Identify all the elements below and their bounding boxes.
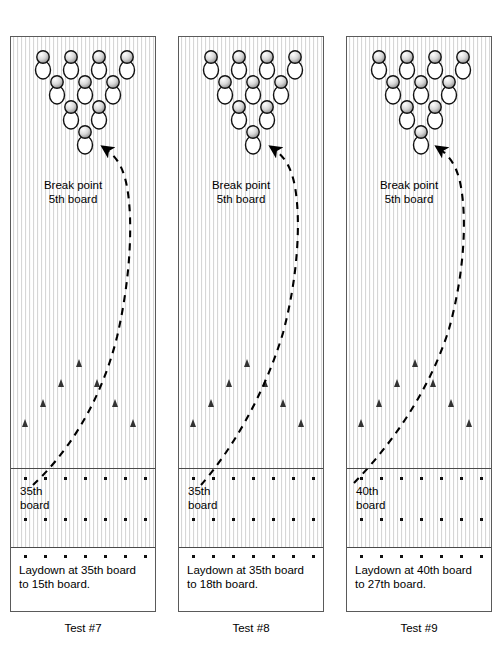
test-label-3: Test #9 [346, 622, 492, 634]
dot-row-upper-3 [347, 477, 491, 483]
dot-row-lower-2 [179, 518, 323, 524]
break-label-line2: 5th board [49, 193, 98, 205]
dot-row-caption-3 [347, 555, 491, 561]
caption-area-1: Laydown at 35th board to 15th board. [11, 547, 155, 612]
board-label-line2: board [188, 499, 217, 511]
caption-line2: to 15th board. [19, 578, 90, 590]
dot-row-upper-1 [11, 477, 155, 483]
caption-line1: Laydown at 35th board [19, 564, 136, 576]
caption-text-3: Laydown at 40th board to 27th board. [355, 564, 485, 591]
caption-line2: to 18th board. [187, 578, 258, 590]
foul-line-1 [11, 468, 155, 469]
lane-arrow-markers [358, 359, 472, 427]
board-label-line2: board [20, 499, 49, 511]
caption-text-1: Laydown at 35th board to 15th board. [19, 564, 149, 591]
break-label-line1: Break point [380, 179, 438, 191]
caption-line1: Laydown at 40th board [355, 564, 472, 576]
lane-panel-test8: 35th board Break point 5th board Laydown… [178, 36, 324, 612]
dot-row-lower-1 [11, 518, 155, 524]
test-label-2: Test #8 [178, 622, 324, 634]
board-label-line1: 35th [188, 485, 210, 497]
dot-row-caption-1 [11, 555, 155, 561]
break-point-label-1: Break point 5th board [23, 179, 123, 206]
break-label-line2: 5th board [217, 193, 266, 205]
foul-line-2 [179, 468, 323, 469]
caption-area-3: Laydown at 40th board to 27th board. [347, 547, 491, 612]
break-label-line2: 5th board [385, 193, 434, 205]
caption-area-2: Laydown at 35th board to 18th board. [179, 547, 323, 612]
break-label-line1: Break point [44, 179, 102, 191]
lane-graphics-3 [347, 37, 491, 611]
dot-row-upper-2 [179, 477, 323, 483]
board-label-2: 35th board [188, 485, 217, 512]
lane-arrow-markers [22, 359, 136, 427]
pin-group [372, 51, 471, 154]
lane-panel-test7: 35th board Break point 5th board Laydown… [10, 36, 156, 612]
board-label-line1: 40th [356, 485, 378, 497]
board-label-line1: 35th [20, 485, 42, 497]
pin-group [36, 51, 135, 154]
caption-text-2: Laydown at 35th board to 18th board. [187, 564, 317, 591]
lane-graphics-2 [179, 37, 323, 611]
board-label-1: 35th board [20, 485, 49, 512]
caption-line2: to 27th board. [355, 578, 426, 590]
lane-graphics-1 [11, 37, 155, 611]
dot-row-lower-3 [347, 518, 491, 524]
dot-row-caption-2 [179, 555, 323, 561]
caption-line1: Laydown at 35th board [187, 564, 304, 576]
board-label-3: 40th board [356, 485, 385, 512]
test-label-1: Test #7 [10, 622, 156, 634]
break-label-line1: Break point [212, 179, 270, 191]
bowling-diagram: 35th board Break point 5th board Laydown… [0, 0, 501, 645]
foul-line-3 [347, 468, 491, 469]
break-point-label-2: Break point 5th board [191, 179, 291, 206]
lane-panel-test9: 40th board Break point 5th board Laydown… [346, 36, 492, 612]
pin-group [204, 51, 303, 154]
board-label-line2: board [356, 499, 385, 511]
break-point-label-3: Break point 5th board [359, 179, 459, 206]
